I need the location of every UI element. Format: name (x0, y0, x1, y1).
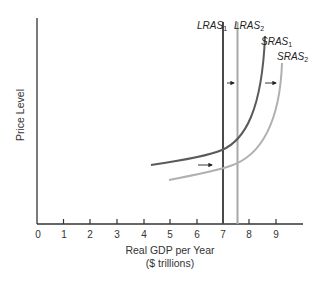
lras1-label: LRAS1 (197, 20, 227, 32)
tick-label: 0 (35, 229, 41, 240)
tick-label: 8 (246, 229, 252, 240)
x-tick-labels: 0 1 2 3 4 5 6 7 8 9 (35, 229, 279, 240)
lras2-label: LRAS2 (234, 20, 264, 32)
sras2-curve (169, 63, 282, 180)
tick-label: 9 (273, 229, 279, 240)
tick-label: 3 (114, 229, 120, 240)
x-ticks (64, 219, 277, 224)
tick-label: 6 (194, 229, 200, 240)
chart: 0 1 2 3 4 5 6 7 8 9 Real GDP per Year ($… (0, 0, 326, 281)
sras1-curve (151, 36, 265, 165)
tick-label: 1 (61, 229, 67, 240)
x-axis-title: Real GDP per Year (125, 244, 215, 256)
y-axis-title: Price Level (14, 89, 26, 141)
tick-label: 4 (141, 229, 147, 240)
tick-label: 2 (87, 229, 93, 240)
tick-label: 5 (167, 229, 173, 240)
sras1-label: SRAS1 (261, 36, 292, 48)
sras2-label: SRAS2 (277, 51, 308, 63)
x-axis-subtitle: ($ trillions) (146, 257, 194, 269)
tick-label: 7 (220, 229, 226, 240)
